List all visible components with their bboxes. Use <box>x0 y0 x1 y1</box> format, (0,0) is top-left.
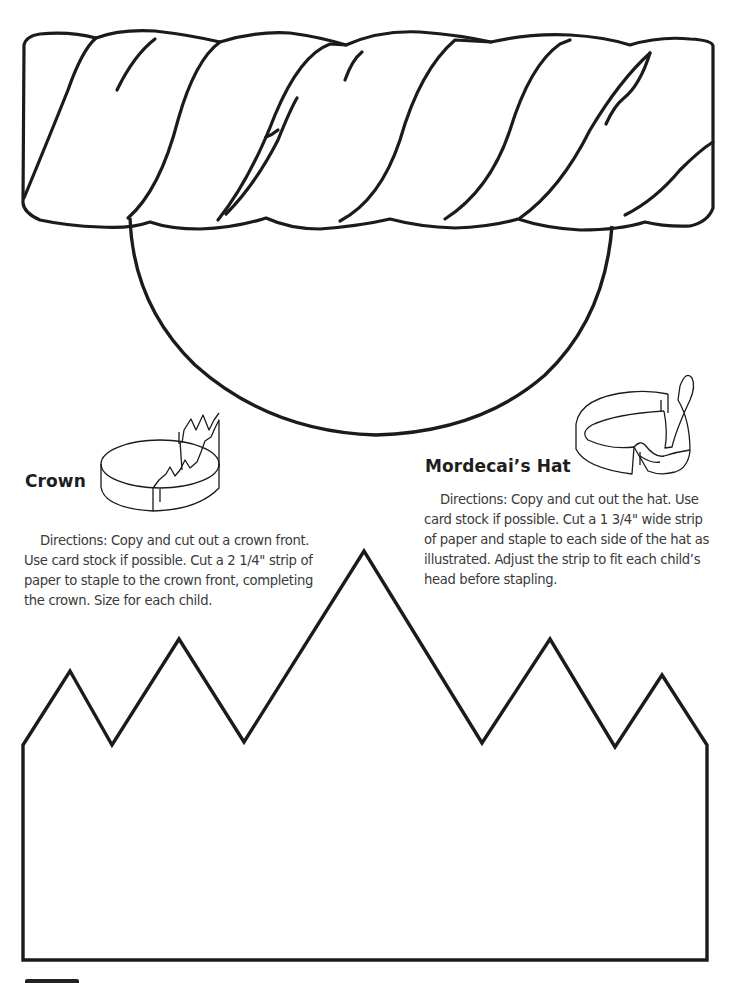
hat-band-cutout <box>23 31 713 230</box>
hat-directions-line-4: illustrated. Adjust the strip to fit eac… <box>424 552 700 567</box>
crown-directions-line-1: Directions: Copy and cut out a crown fro… <box>40 533 309 548</box>
hat-directions-line-2: card stock if possible. Cut a 1 3/4" wid… <box>424 512 703 527</box>
mordecai-hat-directions: Directions: Copy and cut out the hat. Us… <box>424 490 724 590</box>
assembled-crown-icon <box>101 413 219 511</box>
assembled-hat-icon <box>576 375 694 474</box>
hat-directions-line-5: head before stapling. <box>424 572 557 587</box>
hat-dome-cutout <box>130 218 612 435</box>
crown-title: Crown <box>25 471 86 491</box>
crown-front-cutout <box>23 551 707 960</box>
crown-directions: Directions: Copy and cut out a crown fro… <box>24 531 324 611</box>
footer-bar <box>25 979 79 983</box>
hat-directions-line-1: Directions: Copy and cut out the hat. Us… <box>440 492 699 507</box>
hat-directions-line-3: of paper and staple to each side of the … <box>424 532 709 547</box>
mordecai-hat-title: Mordecai’s Hat <box>425 456 571 476</box>
crown-directions-line-4: the crown. Size for each child. <box>24 593 212 608</box>
crown-directions-line-3: paper to staple to the crown front, comp… <box>24 573 313 588</box>
crown-directions-line-2: Use card stock if possible. Cut a 2 1/4"… <box>24 553 313 568</box>
